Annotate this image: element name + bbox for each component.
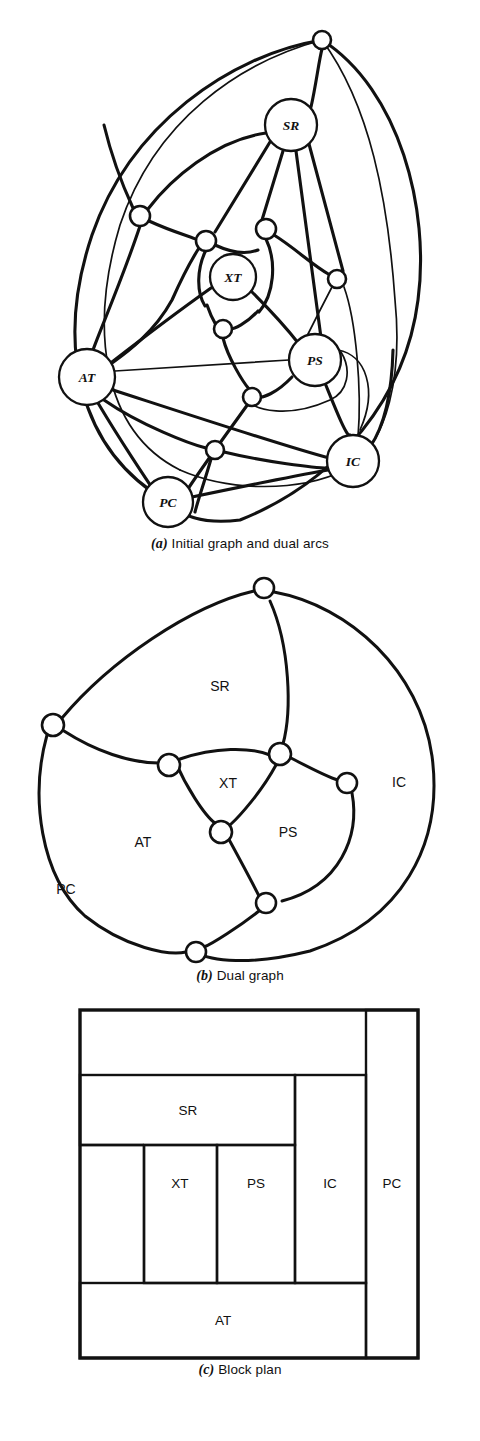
edge-d2-d3 <box>149 221 197 240</box>
caption-a-text: Initial graph and dual arcs <box>172 536 329 551</box>
block-ps-label: PS <box>247 1176 265 1191</box>
figure-b-dual-graph: SR XT AT PS IC PC (b) Dual graph <box>0 566 480 984</box>
node-sr: SR <box>265 99 317 151</box>
node-xt: XT <box>210 254 256 300</box>
edge-d4-d5 <box>274 235 330 275</box>
edge-xt-at <box>112 288 211 362</box>
edge-xt-top <box>180 749 270 759</box>
initial-graph-svg: SR XT AT PS IC PC <box>0 0 480 530</box>
edge-d2-at <box>93 226 140 350</box>
caption-b: (b) Dual graph <box>0 968 480 984</box>
dual-vertex-xt-bottom <box>210 821 232 843</box>
dual-node-bottom-left <box>206 441 224 459</box>
block-ic: IC <box>295 1075 366 1283</box>
edge-xtbottom-psbottom <box>226 834 259 896</box>
dual-vertex-bottom <box>186 942 206 962</box>
node-ic-label: IC <box>345 454 361 469</box>
block-ps-rect <box>217 1145 295 1283</box>
caption-c: (c) Block plan <box>0 1362 480 1378</box>
block-at-label: AT <box>215 1313 231 1328</box>
region-label-ps: PS <box>279 824 298 840</box>
region-label-xt: XT <box>219 775 237 791</box>
dual-vertex-xt-right <box>269 743 291 765</box>
region-label-ic: IC <box>392 774 406 790</box>
block-sr: SR <box>80 1075 295 1145</box>
region-label-at: AT <box>135 834 152 850</box>
dual-node-upper-left <box>130 206 150 226</box>
dual-graph-vertices <box>42 578 357 962</box>
node-at-label: AT <box>78 370 96 385</box>
edge-ic-outer <box>370 350 393 447</box>
dual-node-xt-bottom <box>214 320 232 338</box>
edge-sr-d5 <box>309 144 343 271</box>
edge-at-ps <box>115 360 289 371</box>
dual-node-xt-right <box>256 219 276 239</box>
node-pc-label: PC <box>159 495 177 510</box>
block-pc-label: PC <box>383 1176 402 1191</box>
edge-ps-d7 <box>261 377 292 397</box>
edge-d3-d4-arc <box>215 245 258 252</box>
block-xt-rect <box>144 1145 217 1283</box>
caption-a: (a) Initial graph and dual arcs <box>0 536 480 552</box>
edge-ps-ic <box>325 383 350 435</box>
edge-top-xtright <box>270 601 288 744</box>
region-label-pc: PC <box>56 881 75 897</box>
edge-top-left <box>62 591 254 718</box>
dual-vertex-right <box>337 773 357 793</box>
edge-sr-top <box>311 49 322 107</box>
dual-node-top <box>313 31 331 49</box>
caption-b-text: Dual graph <box>217 968 284 983</box>
edge-sr-d2 <box>148 133 266 209</box>
dual-vertex-xt-left <box>158 754 180 776</box>
node-at: AT <box>59 349 115 405</box>
dual-node-right <box>328 270 346 288</box>
node-ps: PS <box>289 334 341 386</box>
dual-node-center-lower <box>243 388 261 406</box>
edge-psbottom-bottom <box>204 911 259 947</box>
node-ps-label: PS <box>307 353 323 368</box>
block-ic-label: IC <box>323 1176 337 1191</box>
region-label-sr: SR <box>210 678 229 694</box>
block-ps: PS <box>217 1145 295 1283</box>
block-sr-label: SR <box>179 1103 198 1118</box>
block-pc: PC <box>366 1010 418 1358</box>
dual-vertex-top <box>254 578 274 598</box>
caption-c-tag: (c) <box>199 1362 215 1377</box>
block-plan-svg: PC SR IC XT PS AT <box>0 1000 480 1360</box>
edge-xtright-right <box>291 758 338 780</box>
block-xt-label: XT <box>171 1176 188 1191</box>
edge-sr-d4 <box>262 151 283 220</box>
figure-a-initial-graph: SR XT AT PS IC PC (a) <box>0 0 480 552</box>
edge-at-d8 <box>104 400 206 448</box>
caption-b-tag: (b) <box>196 968 213 983</box>
dual-vertex-left <box>42 714 64 736</box>
figure-c-block-plan: PC SR IC XT PS AT (c) <box>0 1000 480 1378</box>
dual-vertex-ps-bottom <box>256 893 276 913</box>
node-pc: PC <box>143 477 193 527</box>
edge-left-xtleft <box>64 731 159 763</box>
node-ic: IC <box>327 435 379 487</box>
edge-right-psbottom <box>282 793 354 901</box>
edge-xt-ps <box>252 292 299 344</box>
block-xt: XT <box>144 1145 217 1283</box>
dual-node-xt-left <box>196 231 216 251</box>
caption-c-text: Block plan <box>218 1362 281 1377</box>
edge-xt-right <box>230 765 276 825</box>
arc-xt-br <box>230 311 258 329</box>
dual-graph-svg: SR XT AT PS IC PC <box>0 566 480 966</box>
caption-a-tag: (a) <box>151 536 168 551</box>
block-at: AT <box>80 1283 366 1358</box>
node-sr-label: SR <box>283 118 300 133</box>
node-xt-label: XT <box>223 270 242 285</box>
